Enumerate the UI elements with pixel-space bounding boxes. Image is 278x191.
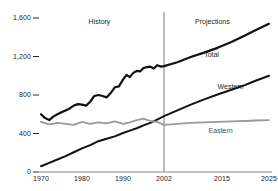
axis-layer bbox=[33, 18, 272, 172]
chart-plot-area bbox=[0, 0, 278, 191]
series-layer bbox=[41, 24, 269, 166]
x-tick-label: 1990 bbox=[108, 175, 138, 182]
y-tick-label: 400 bbox=[0, 130, 31, 137]
series-label-total: Total bbox=[204, 51, 219, 58]
chart-container: 04008001,2001,600 1970198019902002201520… bbox=[0, 0, 278, 191]
x-tick-label: 2015 bbox=[207, 175, 237, 182]
x-tick-label: 1980 bbox=[67, 175, 97, 182]
y-tick-label: 1,200 bbox=[0, 53, 31, 60]
y-tick-label: 800 bbox=[0, 91, 31, 98]
series-label-eastern: Eastern bbox=[209, 127, 233, 134]
y-tick-label: 1,600 bbox=[0, 14, 31, 21]
x-tick-label: 2002 bbox=[149, 175, 179, 182]
series-line-total bbox=[41, 24, 269, 120]
y-tick-label: 0 bbox=[0, 168, 31, 175]
series-label-western: Western bbox=[218, 83, 244, 90]
x-tick-label: 2025 bbox=[254, 175, 278, 182]
annotation-history: History bbox=[89, 18, 111, 25]
annotation-projections: Projections bbox=[195, 18, 230, 25]
x-tick-label: 1970 bbox=[26, 175, 56, 182]
